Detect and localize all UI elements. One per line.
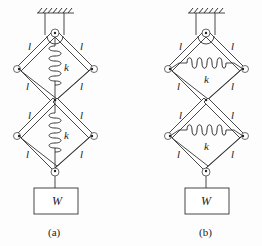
spring-label-a-1: k (64, 61, 70, 73)
link-label-b-5: l (179, 109, 182, 121)
link-label-b-3: l (177, 80, 180, 92)
caption-a: (a) (48, 226, 61, 239)
diagram-root: W l l l l l l l l k k (a) (0, 0, 262, 246)
weight-label-a: W (52, 194, 63, 208)
weight-label-b: W (201, 194, 212, 208)
link-label-a-6: l (80, 109, 83, 121)
figure-b: W l l l l l l l l k k (b) (165, 8, 249, 239)
link-label-b-2: l (231, 40, 234, 52)
link-label-a-2: l (80, 40, 83, 52)
link-label-b-4: l (231, 80, 234, 92)
caption-b: (b) (199, 226, 212, 239)
spring-label-b-1: k (204, 73, 210, 85)
link-label-b-6: l (231, 109, 234, 121)
spring-a-lower (49, 100, 61, 170)
spring-label-a-2: k (64, 129, 70, 141)
figure-a: W l l l l l l l l k k (a) (14, 8, 98, 239)
link-label-b-8: l (231, 148, 234, 160)
link-label-a-5: l (28, 109, 31, 121)
link-label-a-7: l (26, 148, 29, 160)
link-label-b-7: l (177, 148, 180, 160)
link-label-b-1: l (179, 40, 182, 52)
link-label-a-8: l (80, 148, 83, 160)
link-label-a-1: l (28, 40, 31, 52)
spring-label-b-2: k (204, 140, 210, 152)
link-label-a-3: l (26, 80, 29, 92)
link-label-a-4: l (80, 80, 83, 92)
spring-a-upper (49, 35, 61, 100)
